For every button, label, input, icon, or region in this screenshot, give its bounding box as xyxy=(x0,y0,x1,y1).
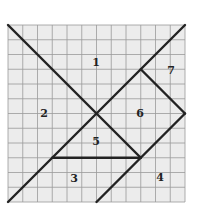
piece-label-6: 6 xyxy=(136,107,144,120)
tangram-diagram: 1234567 xyxy=(0,0,202,207)
piece-label-1: 1 xyxy=(92,56,100,69)
piece-label-3: 3 xyxy=(70,172,78,185)
piece-label-4: 4 xyxy=(156,171,164,184)
piece-label-5: 5 xyxy=(92,135,100,148)
piece-label-2: 2 xyxy=(40,107,48,120)
piece-label-7: 7 xyxy=(167,64,175,77)
